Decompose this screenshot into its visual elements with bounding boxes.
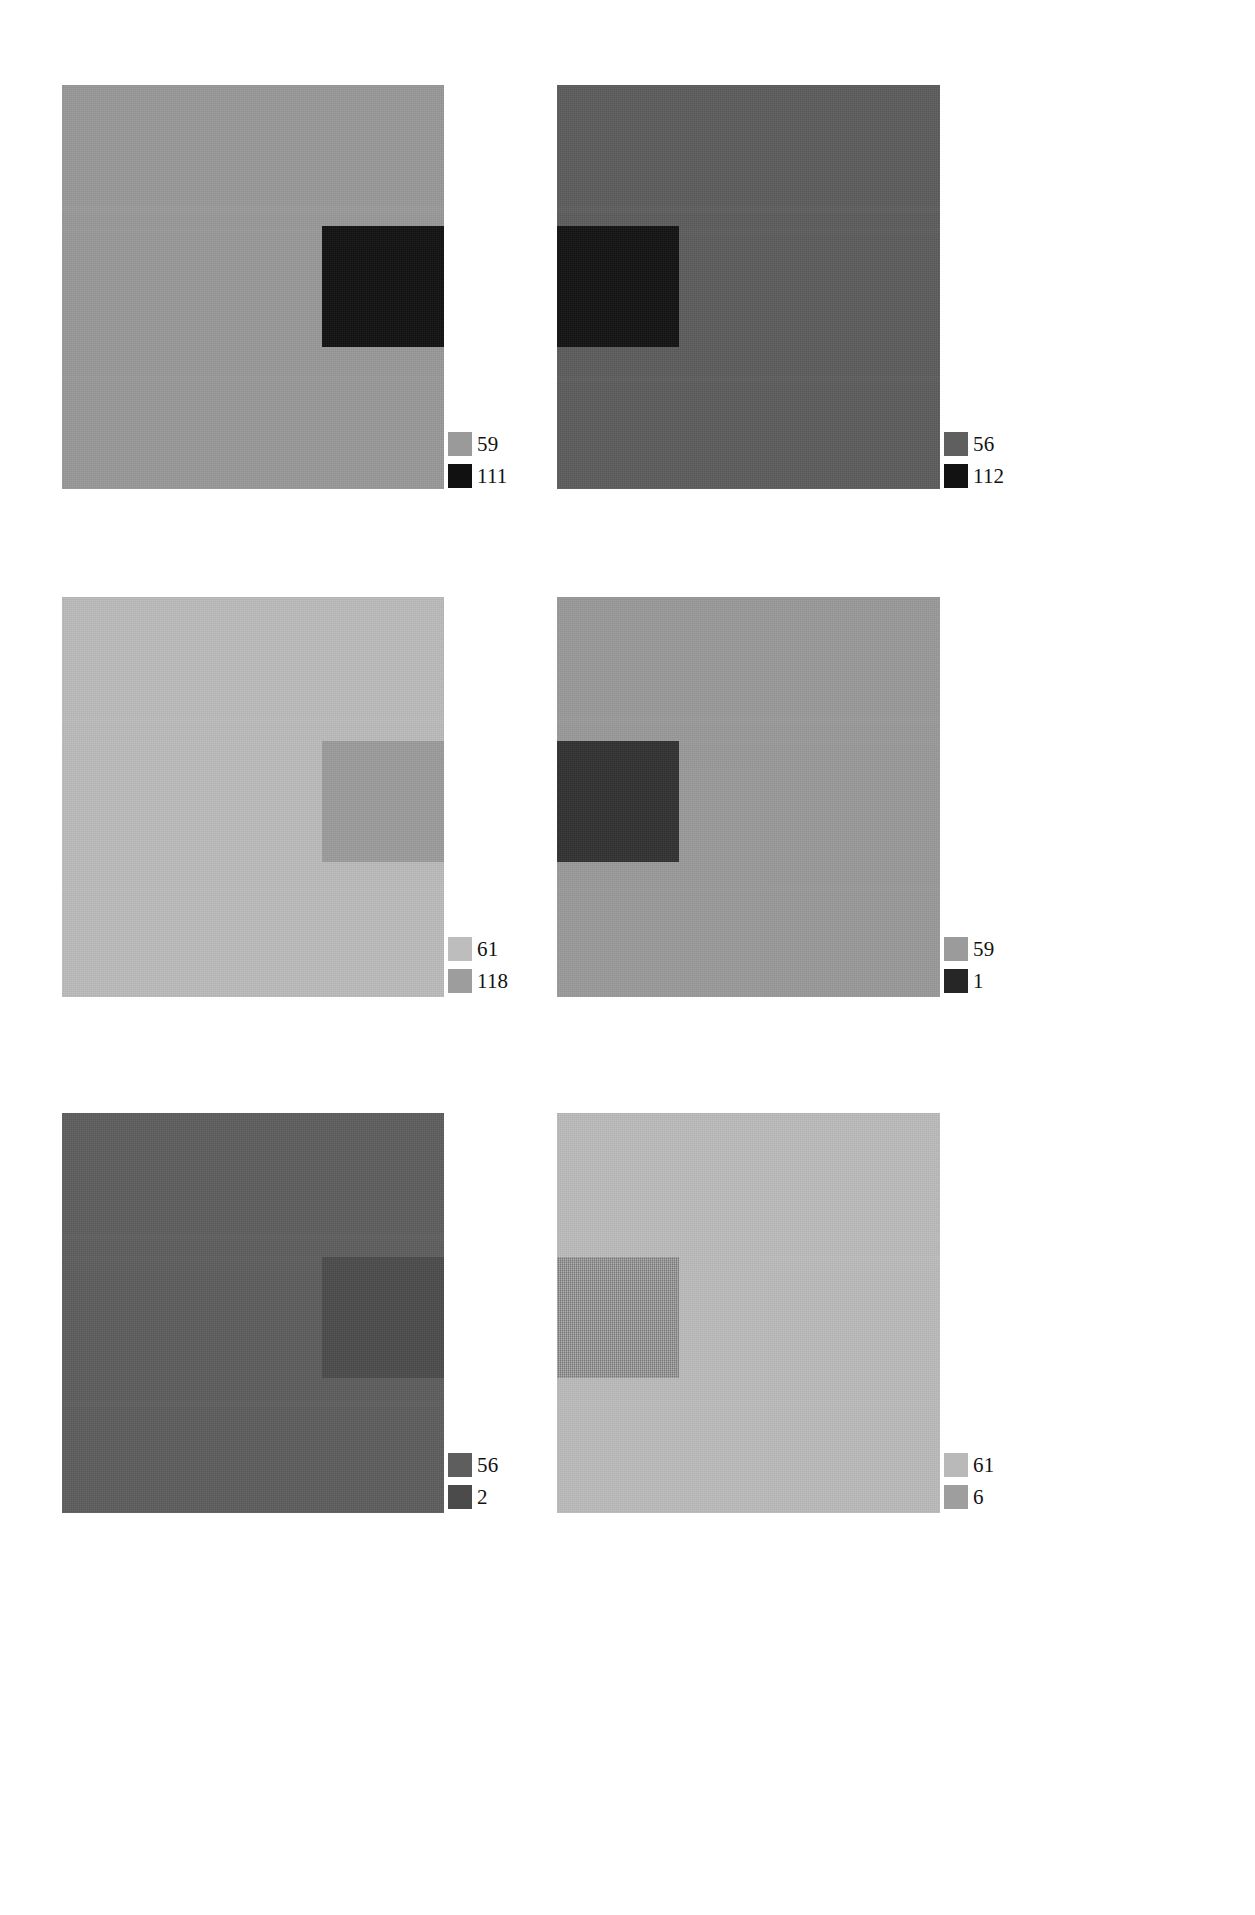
scan-band	[62, 206, 444, 213]
legend-row: 59	[448, 431, 508, 457]
image-panel: 562	[62, 1113, 444, 1513]
scan-band	[557, 717, 940, 724]
legend-swatch-icon	[944, 937, 968, 961]
scan-band	[62, 1233, 444, 1240]
legend-row: 118	[448, 968, 508, 994]
legend-swatch-icon	[944, 464, 968, 488]
scan-band	[557, 206, 940, 213]
legend-label: 61	[973, 1455, 994, 1476]
scan-band	[557, 1233, 940, 1240]
panel-inset-square	[322, 1257, 444, 1378]
panel-inset-square	[322, 741, 444, 862]
scan-band	[62, 1401, 444, 1407]
legend-label: 56	[477, 1455, 498, 1476]
image-panel: 616	[557, 1113, 940, 1513]
panel-background-region	[62, 85, 444, 489]
panel-legend: 56112	[944, 431, 1004, 489]
scan-band	[62, 717, 444, 724]
panel-grid: 591115611261118591562616	[0, 0, 1255, 1915]
legend-row: 2	[448, 1484, 498, 1510]
legend-swatch-icon	[448, 937, 472, 961]
legend-swatch-icon	[448, 969, 472, 993]
panel-background-region	[557, 85, 940, 489]
scan-band	[557, 1401, 940, 1407]
panel-inset-square	[557, 1257, 679, 1378]
image-panel: 56112	[557, 85, 940, 489]
scan-band	[557, 376, 940, 382]
legend-swatch-icon	[448, 464, 472, 488]
legend-row: 1	[944, 968, 994, 994]
panel-background-region	[62, 1113, 444, 1513]
legend-row: 56	[448, 1452, 498, 1478]
panel-inset-square	[557, 226, 679, 347]
legend-label: 111	[477, 466, 508, 487]
legend-label: 118	[477, 971, 508, 992]
legend-swatch-icon	[944, 432, 968, 456]
legend-label: 2	[477, 1487, 488, 1508]
panel-legend: 591	[944, 936, 994, 994]
legend-row: 112	[944, 463, 1004, 489]
legend-row: 59	[944, 936, 994, 962]
legend-label: 59	[477, 434, 498, 455]
legend-swatch-icon	[448, 1485, 472, 1509]
image-panel: 59111	[62, 85, 444, 489]
legend-label: 61	[477, 939, 498, 960]
legend-row: 61	[944, 1452, 994, 1478]
panel-legend: 616	[944, 1452, 994, 1510]
panel-legend: 562	[448, 1452, 498, 1510]
legend-row: 61	[448, 936, 508, 962]
scan-band	[557, 885, 940, 891]
image-panel: 61118	[62, 597, 444, 997]
panel-inset-square	[557, 741, 679, 862]
panel-background-region	[62, 597, 444, 997]
legend-row: 56	[944, 431, 1004, 457]
legend-swatch-icon	[944, 1485, 968, 1509]
legend-row: 6	[944, 1484, 994, 1510]
image-panel: 591	[557, 597, 940, 997]
legend-label: 59	[973, 939, 994, 960]
legend-swatch-icon	[448, 432, 472, 456]
legend-swatch-icon	[448, 1453, 472, 1477]
legend-label: 112	[973, 466, 1004, 487]
panel-legend: 59111	[448, 431, 508, 489]
panel-inset-square	[322, 226, 444, 347]
scan-band	[62, 376, 444, 382]
panel-legend: 61118	[448, 936, 508, 994]
legend-label: 56	[973, 434, 994, 455]
legend-label: 1	[973, 971, 984, 992]
legend-row: 111	[448, 463, 508, 489]
panel-background-region	[557, 597, 940, 997]
legend-swatch-icon	[944, 1453, 968, 1477]
legend-swatch-icon	[944, 969, 968, 993]
panel-background-region	[557, 1113, 940, 1513]
scan-band	[62, 885, 444, 891]
legend-label: 6	[973, 1487, 984, 1508]
